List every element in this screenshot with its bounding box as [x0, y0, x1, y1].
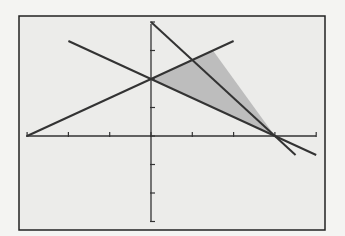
plot-frame: [19, 16, 325, 230]
line-chart: [0, 0, 345, 236]
chart-canvas: [0, 0, 345, 236]
